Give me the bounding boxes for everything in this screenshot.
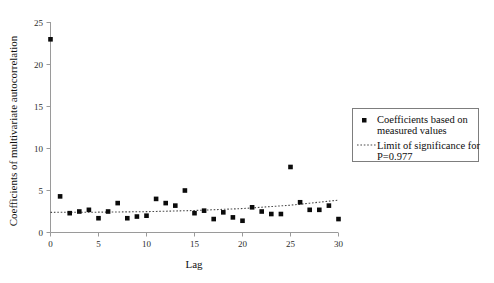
data-point	[279, 212, 284, 217]
x-tick-label-5: 5	[96, 239, 101, 249]
data-point	[231, 215, 236, 220]
data-point	[240, 218, 245, 223]
y-tick-label-25: 25	[34, 18, 44, 28]
data-point	[96, 216, 101, 221]
x-tick-label-0: 0	[48, 239, 53, 249]
chart-figure: 0 5 10 15 20 25 0 5 10 15 20 25 30 Lag C…	[0, 0, 494, 283]
data-point	[269, 212, 274, 217]
data-point	[58, 194, 63, 199]
data-point	[144, 213, 149, 218]
y-tick-label-15: 15	[34, 102, 44, 112]
x-tick-label-20: 20	[238, 239, 248, 249]
data-point	[336, 217, 341, 222]
chart-svg: 0 5 10 15 20 25 0 5 10 15 20 25 30 Lag C…	[0, 0, 494, 283]
legend-label-1-line2: measured values	[377, 125, 447, 136]
data-point	[135, 214, 140, 219]
data-point	[106, 209, 111, 214]
chart-legend: Coefficients based on measured values Li…	[353, 109, 481, 162]
data-point	[211, 217, 216, 222]
data-point	[250, 205, 255, 210]
y-axis-title: Coefficients of multivariate autocorrela…	[7, 35, 19, 226]
data-point	[317, 208, 322, 213]
x-tick-label-25: 25	[286, 239, 296, 249]
data-point	[125, 216, 130, 221]
data-point	[154, 197, 159, 202]
y-tick-label-20: 20	[34, 60, 44, 70]
data-point	[67, 211, 72, 216]
legend-label-2-line2: P=0.977	[377, 151, 412, 162]
data-point	[192, 211, 197, 216]
x-axis-title: Lag	[185, 258, 203, 270]
y-tick-label-5: 5	[39, 186, 44, 196]
data-point	[87, 208, 92, 213]
x-tick-label-10: 10	[142, 239, 152, 249]
y-tick-label-0: 0	[39, 228, 44, 238]
data-point	[173, 203, 178, 208]
data-point	[298, 200, 303, 205]
x-tick-label-15: 15	[190, 239, 200, 249]
legend-label-2-line1: Limit of significance for	[377, 140, 480, 151]
data-point	[259, 209, 264, 214]
data-point	[163, 201, 168, 206]
legend-marker-square-icon	[362, 118, 367, 123]
data-point	[307, 208, 312, 213]
data-point	[221, 210, 226, 215]
data-point	[327, 203, 332, 208]
data-point	[48, 37, 53, 42]
data-point	[288, 165, 293, 170]
data-point	[115, 201, 120, 206]
y-tick-label-10: 10	[34, 144, 44, 154]
data-point	[202, 208, 207, 213]
legend-label-1-line1: Coefficients based on	[377, 114, 469, 125]
data-point	[77, 209, 82, 214]
x-tick-label-30: 30	[334, 239, 344, 249]
data-point	[183, 188, 188, 193]
